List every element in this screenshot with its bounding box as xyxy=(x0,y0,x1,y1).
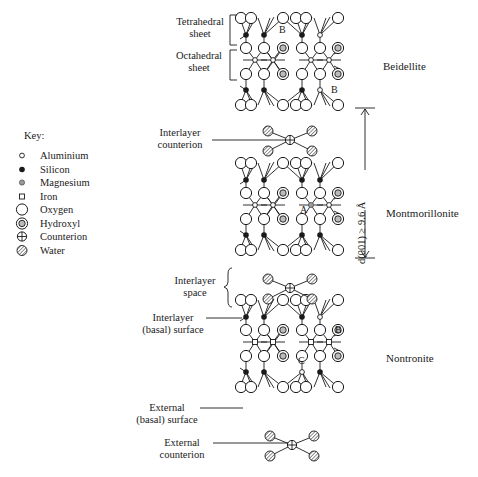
silicon-icon xyxy=(299,314,305,320)
oxygen-icon xyxy=(300,12,311,23)
interlayer-counterion xyxy=(263,126,317,156)
mineral-beidellite: Beidellite xyxy=(383,60,426,72)
water-molecule-icon xyxy=(309,431,319,441)
oxygen-icon xyxy=(332,99,343,110)
oxygen-icon xyxy=(240,42,251,53)
oxygen-icon xyxy=(245,381,256,392)
interlayer-space-label: Interlayer space xyxy=(166,275,224,299)
silicon-icon xyxy=(299,177,305,183)
legend-item-silicon: Silicon xyxy=(10,163,90,177)
legend-title: Key: xyxy=(24,130,90,141)
legend-item-water: Water xyxy=(10,244,90,258)
iron-icon xyxy=(271,340,276,345)
oxygen-icon xyxy=(258,187,269,198)
legend-item-iron: Iron xyxy=(10,190,90,204)
silicon-icon xyxy=(261,177,267,183)
silicon-icon xyxy=(317,232,323,238)
water-molecule-icon xyxy=(307,294,317,304)
label-line: space xyxy=(166,287,224,299)
silicon-icon xyxy=(243,369,249,375)
oxygen-icon xyxy=(245,294,256,305)
tag-b-beidellite-top: B xyxy=(279,24,286,35)
legend-label: Aluminium xyxy=(40,150,88,161)
iron-icon xyxy=(327,340,332,345)
silicon-icon xyxy=(261,369,267,375)
oxygen-icon xyxy=(300,99,311,110)
oxygen-icon xyxy=(277,381,288,392)
oxygen-icon xyxy=(277,12,288,23)
legend-label: Counterion xyxy=(40,231,87,242)
oxygen-icon xyxy=(240,213,251,224)
iron-icon xyxy=(309,340,314,345)
silicon-legend-icon xyxy=(19,166,25,172)
counterion-icon xyxy=(285,283,294,292)
label-line: Octahedral xyxy=(168,50,230,62)
legend-item-magnesium: Magnesium xyxy=(10,176,90,190)
external-basal-surface-label: External (basal) surface xyxy=(134,402,200,426)
oxygen-icon xyxy=(277,157,288,168)
oxygen-icon xyxy=(10,203,34,216)
label-line: sheet xyxy=(170,28,230,40)
oxygen-icon xyxy=(300,244,311,255)
oxygen-icon xyxy=(258,350,269,361)
aluminium-icon xyxy=(309,58,314,63)
silicon-icon xyxy=(261,232,267,238)
legend-item-oxygen: Oxygen xyxy=(10,203,90,217)
iron-icon xyxy=(253,340,258,345)
tag-b-beidellite-bottom: B xyxy=(331,84,338,95)
silicon-icon xyxy=(243,314,249,320)
oxygen-icon xyxy=(332,244,343,255)
hydroxyl-icon xyxy=(277,324,288,335)
oxygen-icon xyxy=(245,12,256,23)
silicon-icon xyxy=(261,32,267,38)
oxygen-icon xyxy=(296,213,307,224)
oxygen-icon xyxy=(245,157,256,168)
hydroxyl-icon xyxy=(332,213,343,224)
label-line: counterion xyxy=(152,449,212,461)
magnesium-icon xyxy=(10,176,34,189)
legend-item-aluminium: Aluminium xyxy=(10,149,90,163)
label-line: Interlayer xyxy=(150,127,210,139)
tag-c-nontronite: C xyxy=(298,355,305,366)
oxygen-icon xyxy=(314,324,325,335)
water-molecule-icon xyxy=(263,274,273,284)
legend-label: Iron xyxy=(40,191,58,202)
oxygen-icon xyxy=(240,324,251,335)
label-line: (basal) surface xyxy=(134,414,200,426)
silicon-icon xyxy=(299,32,305,38)
oxygen-icon xyxy=(240,187,251,198)
oxygen-icon xyxy=(332,157,343,168)
legend-label: Silicon xyxy=(40,164,70,175)
oxygen-icon xyxy=(296,68,307,79)
silicon-icon xyxy=(243,32,249,38)
smectite-structure-diagram: Key: AluminiumSiliconMagnesiumIronOxygen… xyxy=(0,0,478,477)
water-molecule-icon xyxy=(263,126,273,136)
oxygen-legend-icon xyxy=(16,204,27,215)
oxygen-icon xyxy=(296,187,307,198)
aluminium-icon xyxy=(327,203,332,208)
hydroxyl-icon xyxy=(277,350,288,361)
oxygen-icon xyxy=(296,42,307,53)
silicon-icon xyxy=(243,232,249,238)
aluminium-substitution-icon xyxy=(318,315,323,320)
oxygen-icon xyxy=(300,381,311,392)
magnesium-legend-icon xyxy=(19,180,24,185)
legend-item-hydroxyl: Hydroxyl xyxy=(10,217,90,231)
silicon-icon xyxy=(299,232,305,238)
oxygen-icon xyxy=(314,213,325,224)
aluminium-icon xyxy=(271,58,276,63)
water-molecule-icon xyxy=(307,274,317,284)
label-line: External xyxy=(152,437,212,449)
tag-a-montmorillonite: A xyxy=(300,204,307,215)
legend: Key: AluminiumSiliconMagnesiumIronOxygen… xyxy=(10,130,90,257)
label-line: External xyxy=(134,402,200,414)
water-molecule-icon xyxy=(263,146,273,156)
interlayer-counterion-label: Interlayer counterion xyxy=(150,127,210,151)
oxygen-icon xyxy=(277,294,288,305)
water-molecule-icon xyxy=(309,451,319,461)
label-line: Interlayer xyxy=(166,275,224,287)
oxygen-icon xyxy=(258,324,269,335)
oxygen-icon xyxy=(277,244,288,255)
mineral-nontronite: Nontronite xyxy=(386,352,434,364)
hydroxyl-icon xyxy=(10,217,34,230)
